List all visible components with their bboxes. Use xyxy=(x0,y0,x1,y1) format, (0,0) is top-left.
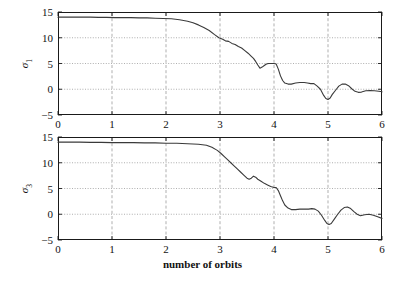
x-tick-label: 5 xyxy=(321,119,335,129)
x-tick-label: 3 xyxy=(213,119,227,129)
plot-canvas-sigma3 xyxy=(0,0,405,283)
y-tick-label: 5 xyxy=(31,184,53,194)
y-tick-label: 15 xyxy=(31,7,53,17)
x-tick-label: 2 xyxy=(159,119,173,129)
x-axis-title: number of orbits xyxy=(0,258,405,270)
x-tick-label: 1 xyxy=(105,244,119,254)
x-tick-label: 2 xyxy=(159,244,173,254)
x-tick-label: 3 xyxy=(213,244,227,254)
y-axis-label-symbol: σ xyxy=(18,187,30,192)
figure-root: σ1 σ3 number of orbits −50510150123456−5… xyxy=(0,0,405,283)
x-tick-label: 6 xyxy=(375,119,389,129)
y-tick-label: 5 xyxy=(31,59,53,69)
x-tick-label: 4 xyxy=(267,244,281,254)
x-tick-label: 0 xyxy=(51,119,65,129)
x-tick-label: 0 xyxy=(51,244,65,254)
y-tick-label: 0 xyxy=(31,84,53,94)
y-tick-label: 10 xyxy=(31,33,53,43)
x-tick-label: 5 xyxy=(321,244,335,254)
y-tick-label: 15 xyxy=(31,132,53,142)
x-tick-label: 4 xyxy=(267,119,281,129)
y-tick-label: 10 xyxy=(31,158,53,168)
x-tick-label: 6 xyxy=(375,244,389,254)
x-tick-label: 1 xyxy=(105,119,119,129)
y-tick-label: −5 xyxy=(31,235,53,245)
y-tick-label: −5 xyxy=(31,110,53,120)
y-tick-label: 0 xyxy=(31,209,53,219)
